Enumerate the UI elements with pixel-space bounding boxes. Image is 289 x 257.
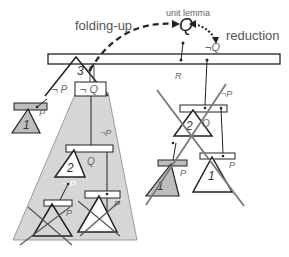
right-p-b-label: P (229, 160, 235, 170)
q-left-label: Q (87, 156, 95, 167)
connector-line (205, 60, 207, 105)
left-node1-label: 1 (23, 118, 30, 132)
not-p-left-label: ¬ P (52, 84, 68, 95)
left-p-label: P (39, 108, 45, 118)
connector-line (221, 108, 223, 153)
right-node1-b-label: 1 (208, 169, 215, 183)
unit-lemma-q: Q (179, 15, 193, 35)
folding-up-label: folding-up (75, 18, 132, 33)
r-label: R (175, 71, 182, 81)
node2-left-label: 2 (66, 161, 74, 175)
not-p-mid-label: ¬P (100, 128, 111, 138)
not-q-top-label: ¬Q (205, 41, 220, 53)
right-node2-label: 2 (185, 119, 193, 133)
not-q-box-label: ¬ Q (80, 83, 98, 95)
right-p-a-label: P (180, 168, 186, 178)
node3-label: 3 (77, 64, 84, 78)
reduction-label: reduction (226, 28, 279, 43)
bottom-left-bar (44, 200, 72, 206)
tableau-diagram: folding-up unit lemma Q reduction ¬Q R 3… (0, 0, 289, 257)
root-clause-bar (48, 54, 280, 64)
reduction-arrow (194, 24, 215, 40)
bottom-right-bar (85, 191, 120, 198)
